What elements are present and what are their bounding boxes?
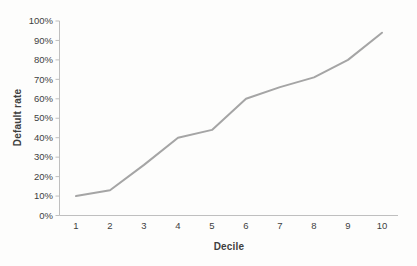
y-axis-title: Default rate	[12, 78, 23, 158]
chart-container: 0%10%20%30%40%50%60%70%80%90%100%1234567…	[0, 0, 417, 266]
x-tick-label: 4	[175, 220, 180, 231]
x-tick-label: 2	[107, 220, 112, 231]
y-tick-label: 60%	[34, 93, 54, 104]
y-tick-label: 10%	[34, 190, 54, 201]
y-tick-label: 30%	[34, 151, 54, 162]
line-chart: 0%10%20%30%40%50%60%70%80%90%100%1234567…	[0, 0, 417, 266]
y-tick-label: 90%	[34, 35, 54, 46]
y-tick-label: 80%	[34, 54, 54, 65]
x-tick-label: 8	[311, 220, 316, 231]
x-tick-label: 1	[73, 220, 78, 231]
x-tick-label: 3	[141, 220, 146, 231]
x-tick-label: 7	[277, 220, 282, 231]
x-tick-label: 5	[209, 220, 214, 231]
default-rate-series-line	[76, 33, 382, 196]
x-tick-label: 6	[243, 220, 248, 231]
x-tick-label: 10	[377, 220, 388, 231]
y-tick-label: 50%	[34, 112, 54, 123]
x-axis-title: Decile	[189, 241, 269, 252]
y-tick-label: 100%	[29, 15, 54, 26]
y-tick-label: 20%	[34, 171, 54, 182]
y-tick-label: 40%	[34, 132, 54, 143]
y-tick-label: 70%	[34, 74, 54, 85]
x-tick-label: 9	[345, 220, 350, 231]
y-tick-label: 0%	[39, 210, 53, 221]
